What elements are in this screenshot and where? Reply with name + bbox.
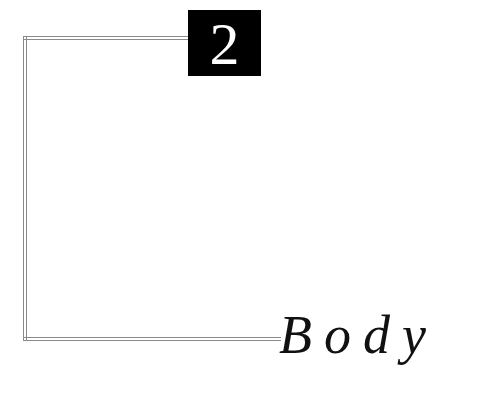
frame-left-double-line bbox=[23, 36, 27, 341]
chapter-number-box: 2 bbox=[188, 10, 261, 76]
frame-bottom-double-line bbox=[23, 337, 281, 341]
frame-top-double-line bbox=[23, 36, 188, 40]
chapter-number: 2 bbox=[210, 14, 240, 74]
chapter-title: Body bbox=[279, 308, 438, 362]
